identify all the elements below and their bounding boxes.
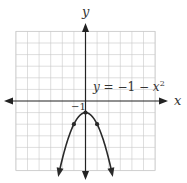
parabola-graph: y x y = −1 − x2 −1 — [0, 0, 187, 183]
x-axis-label: x — [174, 93, 182, 108]
vertex-tick-label: −1 — [71, 101, 86, 112]
y-axis-label: y — [81, 4, 90, 19]
equation-label: y = −1 − x2 — [92, 79, 165, 94]
curve-arrow-icon — [107, 167, 114, 177]
y-axis-up-arrow-icon — [82, 23, 89, 32]
y-axis-down-arrow-icon — [82, 171, 89, 180]
curve-arrow-icon — [57, 167, 64, 177]
data-point — [95, 122, 99, 126]
data-point — [72, 122, 76, 126]
x-axis-right-arrow-icon — [159, 98, 168, 105]
x-axis-left-arrow-icon — [4, 98, 13, 105]
